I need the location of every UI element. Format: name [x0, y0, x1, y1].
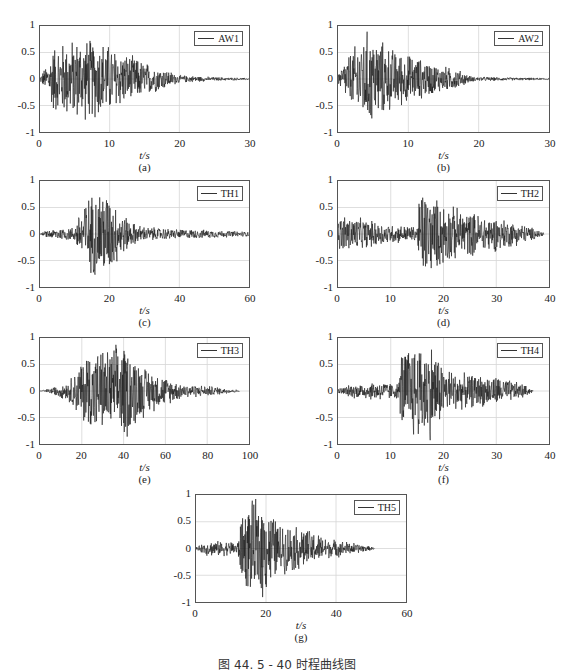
y-tick-label: -0.5 [9, 412, 35, 423]
x-axis-label-text: t/s [139, 149, 149, 161]
figure-caption: 图 44. 5 - 40 时程曲线图 [0, 655, 574, 672]
x-axis-label-text: t/s [438, 149, 448, 161]
y-tick-label: 0.5 [307, 46, 333, 57]
legend: AW1 [194, 31, 243, 46]
panel-sublabel: (c) [125, 316, 165, 328]
plot-area: TH4 [337, 337, 550, 445]
y-tick-label: -1 [307, 127, 333, 138]
legend-line-swatch [201, 350, 217, 351]
x-axis-label: t/s [125, 461, 165, 473]
x-tick-label: 40 [535, 293, 565, 304]
x-tick-label: 40 [165, 293, 195, 304]
x-tick-label: 60 [151, 450, 181, 461]
legend-line-swatch [358, 507, 374, 508]
y-tick-label: 0 [9, 385, 35, 396]
y-tick-label: 1 [307, 174, 333, 185]
legend: TH2 [497, 186, 543, 201]
legend-label: TH1 [221, 186, 239, 201]
y-tick-label: 0 [9, 73, 35, 84]
x-tick-label: 0 [24, 138, 54, 149]
plot-area: AW1 [39, 25, 250, 133]
x-tick-label: 100 [235, 450, 265, 461]
y-tick-label: -0.5 [9, 255, 35, 266]
x-axis-label: t/s [424, 304, 464, 316]
x-tick-label: 20 [66, 450, 96, 461]
x-tick-label: 20 [429, 293, 459, 304]
y-tick-label: -1 [9, 282, 35, 293]
x-tick-label: 40 [321, 608, 351, 619]
x-tick-label: 0 [180, 608, 210, 619]
y-tick-label: 0.5 [9, 46, 35, 57]
x-tick-label: 30 [482, 293, 512, 304]
legend-line-swatch [501, 350, 517, 351]
panel-sublabel: (b) [424, 161, 464, 173]
x-tick-label: 10 [94, 138, 124, 149]
x-axis-label-text: t/s [139, 304, 149, 316]
y-tick-label: 1 [165, 488, 191, 499]
x-axis-label: t/s [424, 461, 464, 473]
x-axis-label: t/s [281, 619, 321, 631]
y-tick-label: -1 [165, 597, 191, 608]
legend: AW2 [494, 31, 543, 46]
y-tick-label: 0.5 [307, 201, 333, 212]
x-tick-label: 20 [464, 138, 494, 149]
y-tick-label: 0 [307, 385, 333, 396]
plot-area: TH3 [39, 337, 250, 445]
y-tick-label: 0.5 [307, 358, 333, 369]
x-tick-label: 10 [375, 293, 405, 304]
panel-sublabel: (g) [281, 631, 321, 643]
x-tick-label: 40 [108, 450, 138, 461]
y-tick-label: 1 [307, 19, 333, 30]
panel-sublabel: (a) [125, 161, 165, 173]
x-tick-label: 0 [322, 138, 352, 149]
legend-label: AW2 [518, 31, 539, 46]
legend: TH5 [354, 500, 400, 515]
y-tick-label: 1 [9, 331, 35, 342]
y-tick-label: 0.5 [9, 201, 35, 212]
x-tick-label: 30 [235, 138, 265, 149]
y-tick-label: -0.5 [307, 255, 333, 266]
x-axis-label-text: t/s [139, 461, 149, 473]
y-tick-label: 0 [165, 543, 191, 554]
x-tick-label: 20 [429, 450, 459, 461]
legend-line-swatch [501, 193, 517, 194]
y-tick-label: 0 [307, 228, 333, 239]
legend-line-swatch [198, 38, 214, 39]
x-tick-label: 0 [24, 293, 54, 304]
x-tick-label: 60 [392, 608, 422, 619]
x-tick-label: 30 [535, 138, 565, 149]
x-tick-label: 0 [322, 450, 352, 461]
x-tick-label: 10 [393, 138, 423, 149]
y-tick-label: 1 [9, 174, 35, 185]
panel-sublabel: (d) [424, 316, 464, 328]
x-axis-label-text: t/s [438, 461, 448, 473]
legend-label: TH2 [521, 186, 539, 201]
y-tick-label: 0 [9, 228, 35, 239]
plot-area: TH2 [337, 180, 550, 288]
y-tick-label: -0.5 [307, 100, 333, 111]
x-axis-label: t/s [125, 149, 165, 161]
x-tick-label: 40 [535, 450, 565, 461]
y-tick-label: -0.5 [9, 100, 35, 111]
legend-label: TH4 [521, 343, 539, 358]
legend-label: TH5 [378, 500, 396, 515]
x-axis-label: t/s [424, 149, 464, 161]
legend-line-swatch [201, 193, 217, 194]
plot-area: TH5 [195, 494, 407, 603]
y-tick-label: -1 [307, 282, 333, 293]
y-tick-label: -1 [307, 439, 333, 450]
y-tick-label: 0 [307, 73, 333, 84]
x-axis-label: t/s [125, 304, 165, 316]
legend: TH3 [197, 343, 243, 358]
y-tick-label: 1 [9, 19, 35, 30]
legend: TH4 [497, 343, 543, 358]
y-tick-label: 0.5 [165, 515, 191, 526]
x-axis-label-text: t/s [296, 619, 306, 631]
y-tick-label: -0.5 [307, 412, 333, 423]
legend-label: TH3 [221, 343, 239, 358]
x-tick-label: 80 [193, 450, 223, 461]
y-tick-label: 0.5 [9, 358, 35, 369]
y-tick-label: -0.5 [165, 570, 191, 581]
panel-sublabel: (e) [125, 473, 165, 485]
y-tick-label: -1 [9, 439, 35, 450]
